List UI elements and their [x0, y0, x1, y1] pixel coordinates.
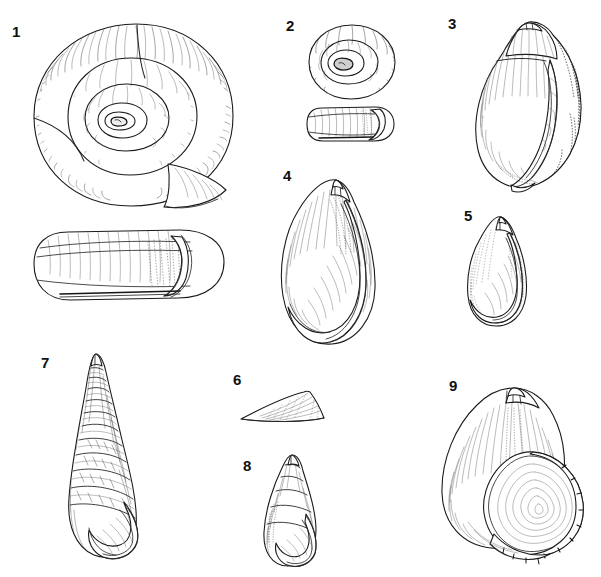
- figure-8-drawing: [258, 452, 332, 572]
- figure-label-7: 7: [41, 355, 49, 370]
- figure-label-8: 8: [243, 458, 251, 473]
- figure-6-drawing: [236, 388, 332, 430]
- figure-2-shell: [302, 22, 402, 102]
- figure-7-drawing: [58, 352, 160, 564]
- figure-7-shell: [58, 352, 160, 564]
- figure-1-lateral-view: [30, 224, 235, 314]
- figure-3-drawing: [470, 18, 588, 193]
- illustration-plate: 1: [0, 0, 601, 577]
- figure-8-shell: [258, 452, 332, 572]
- figure-label-6: 6: [233, 372, 241, 387]
- figure-9-drawing: [438, 382, 590, 564]
- figure-label-3: 3: [448, 16, 456, 31]
- figure-2-lateral-view: [305, 104, 398, 144]
- figure-9-shell: [438, 382, 590, 564]
- figure-5-shell: [462, 214, 534, 329]
- figure-2-drawing: [302, 22, 402, 102]
- figure-2-lateral-drawing: [305, 104, 398, 144]
- figure-1-lateral-drawing: [30, 224, 235, 314]
- figure-label-2: 2: [286, 18, 294, 33]
- figure-3-shell: [470, 18, 588, 193]
- figure-5-drawing: [462, 214, 534, 329]
- figure-4-shell: [274, 176, 386, 348]
- figure-6-shell: [236, 388, 332, 430]
- figure-4-drawing: [274, 176, 386, 348]
